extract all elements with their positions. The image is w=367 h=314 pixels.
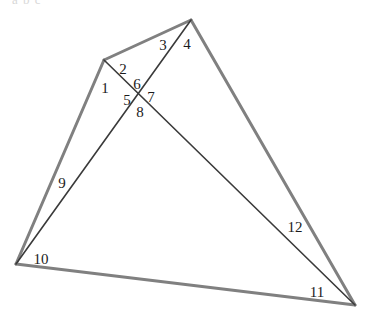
edge-left-peak-to-apex: [104, 20, 191, 60]
angle-label-9: 9: [58, 176, 66, 191]
angle-label-7: 7: [147, 90, 155, 105]
edge-bottom-left-to-left-peak: [16, 60, 104, 264]
geometry-figure: a b c 123456789101112: [0, 0, 367, 314]
edge-bottom-left-to-bottom-right: [16, 264, 355, 305]
angle-label-12: 12: [288, 220, 303, 235]
cevian-group: [16, 20, 355, 305]
angle-label-10: 10: [34, 252, 49, 267]
triangle-outline-group: [16, 20, 355, 305]
angle-label-4: 4: [183, 37, 191, 52]
angle-label-3: 3: [159, 38, 167, 53]
angle-label-2: 2: [119, 62, 127, 77]
angle-label-8: 8: [136, 105, 144, 120]
angle-label-5: 5: [123, 93, 131, 108]
edge-apex-to-bottom-right: [191, 20, 355, 305]
angle-label-6: 6: [133, 77, 141, 92]
cevian-left-peak-to-bottom-right: [104, 60, 355, 305]
angle-label-1: 1: [101, 81, 109, 96]
angle-label-11: 11: [310, 285, 324, 300]
cevian-bottom-left-to-apex: [16, 20, 191, 264]
